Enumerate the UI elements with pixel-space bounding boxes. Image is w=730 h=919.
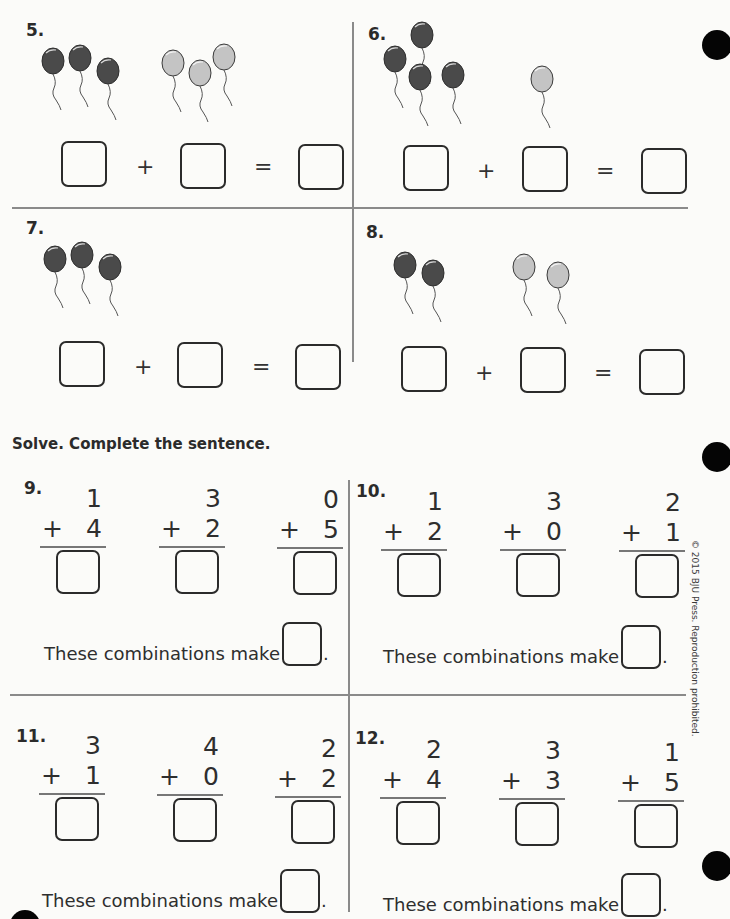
answer-box[interactable] <box>635 554 679 598</box>
addend-top: 3 <box>85 733 101 758</box>
sum-line <box>159 546 225 548</box>
bottom-column-divider <box>348 480 350 912</box>
sum-line <box>39 793 105 795</box>
sum-line <box>381 549 447 551</box>
problem-number: 5. <box>26 20 44 40</box>
plus-sign: + <box>383 519 404 544</box>
answer-box[interactable] <box>56 550 100 594</box>
addend-top: 2 <box>426 737 442 762</box>
completion-sentence: These combinations make. <box>383 873 668 917</box>
completion-sentence: These combinations make. <box>42 869 327 913</box>
answer-box[interactable] <box>291 800 335 844</box>
sentence-answer-box[interactable] <box>280 869 320 913</box>
bottom-row-divider <box>10 694 686 696</box>
answer-box-addend-1[interactable] <box>403 145 449 191</box>
addend-bottom: 0 <box>203 764 219 789</box>
addend-bottom: 1 <box>665 520 681 545</box>
answer-box-addend-1[interactable] <box>59 341 105 387</box>
light-balloons-group <box>162 44 262 138</box>
plus-sign: + <box>620 770 641 795</box>
addend-bottom: 3 <box>545 768 561 793</box>
sum-line <box>380 797 446 799</box>
plus-sign: + <box>136 154 154 179</box>
addend-bottom: 5 <box>664 770 680 795</box>
punch-hole-top <box>702 30 730 60</box>
problem-number: 10. <box>356 481 386 501</box>
sum-line <box>157 794 223 796</box>
dark-balloons-group <box>384 22 494 146</box>
addend-bottom: 4 <box>426 767 442 792</box>
sentence-answer-box[interactable] <box>282 622 322 666</box>
plus-sign: + <box>134 354 152 379</box>
answer-box-addend-2[interactable] <box>180 143 226 189</box>
addend-bottom: 2 <box>427 519 443 544</box>
problem-number: 7. <box>26 218 44 238</box>
dark-balloons-group <box>42 48 152 142</box>
answer-box[interactable] <box>173 798 217 842</box>
section-instruction: Solve. Complete the sentence. <box>12 435 271 453</box>
sentence-period: . <box>662 894 668 915</box>
answer-box-sum[interactable] <box>298 144 344 190</box>
sum-line <box>618 800 684 802</box>
punch-hole-middle <box>702 442 730 472</box>
addend-bottom: 4 <box>86 516 102 541</box>
plus-sign: + <box>279 517 300 542</box>
addend-bottom: 2 <box>321 766 337 791</box>
answer-box-addend-2[interactable] <box>522 146 568 192</box>
sentence-period: . <box>321 890 327 911</box>
answer-box[interactable] <box>634 804 678 848</box>
answer-box[interactable] <box>55 797 99 841</box>
sum-line <box>40 546 106 548</box>
problem-number: 11. <box>16 726 46 746</box>
top-row-divider <box>12 207 688 209</box>
sum-line <box>275 796 341 798</box>
sentence-text: These combinations make <box>383 646 619 667</box>
answer-box-addend-2[interactable] <box>177 342 223 388</box>
sentence-answer-box[interactable] <box>621 873 661 917</box>
sentence-text: These combinations make <box>383 894 619 915</box>
addend-bottom: 5 <box>323 517 339 542</box>
addend-top: 3 <box>545 738 561 763</box>
sentence-answer-box[interactable] <box>621 625 661 669</box>
equals-sign: = <box>594 360 612 385</box>
sentence-period: . <box>662 646 668 667</box>
problem-number: 12. <box>355 728 385 748</box>
addend-top: 2 <box>665 490 681 515</box>
answer-box-addend-1[interactable] <box>401 346 447 392</box>
punch-hole-partial <box>10 910 40 919</box>
addend-bottom: 0 <box>546 519 562 544</box>
answer-box-sum[interactable] <box>639 349 685 395</box>
addend-top: 1 <box>427 489 443 514</box>
plus-sign: + <box>277 766 298 791</box>
plus-sign: + <box>41 763 62 788</box>
sentence-text: These combinations make <box>42 890 278 911</box>
light-balloons-group <box>513 254 583 348</box>
equals-sign: = <box>596 158 614 183</box>
sum-line <box>499 798 565 800</box>
answer-box[interactable] <box>175 550 219 594</box>
addend-top: 1 <box>664 740 680 765</box>
sentence-text: These combinations make <box>44 643 280 664</box>
plus-sign: + <box>159 764 180 789</box>
addend-top: 3 <box>546 489 562 514</box>
answer-box[interactable] <box>396 801 440 845</box>
answer-box[interactable] <box>516 553 560 597</box>
sum-line <box>500 549 566 551</box>
dark-balloons-group <box>394 252 464 346</box>
answer-box-sum[interactable] <box>641 148 687 194</box>
answer-box[interactable] <box>515 802 559 846</box>
addend-top: 1 <box>86 486 102 511</box>
addend-top: 2 <box>321 736 337 761</box>
addend-top: 3 <box>205 486 221 511</box>
answer-box[interactable] <box>293 551 337 595</box>
addend-top: 0 <box>323 487 339 512</box>
problem-number: 9. <box>24 478 42 498</box>
plus-sign: + <box>502 519 523 544</box>
answer-box-sum[interactable] <box>295 344 341 390</box>
plus-sign: + <box>475 360 493 385</box>
answer-box[interactable] <box>397 553 441 597</box>
answer-box-addend-2[interactable] <box>520 347 566 393</box>
answer-box-addend-1[interactable] <box>61 141 107 187</box>
dark-balloons-group <box>44 246 154 340</box>
completion-sentence: These combinations make. <box>383 625 668 669</box>
